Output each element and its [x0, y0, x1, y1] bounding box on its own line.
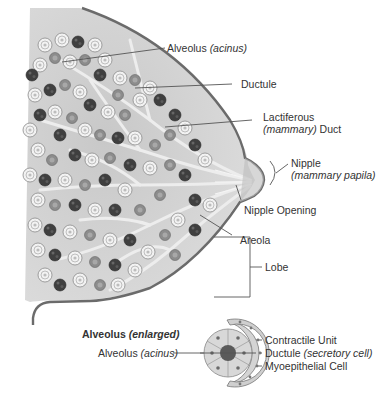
label-alveolus: Alveolus (acinus)	[167, 42, 247, 54]
label-lobe: Lobe	[265, 261, 288, 273]
label-nipple-opening: Nipple Opening	[244, 204, 316, 216]
inset-label-alveolus: Alveolus (acinus)	[98, 347, 178, 359]
alveolus-enlarged-illustration	[200, 319, 269, 387]
label-ductule: Ductule	[241, 78, 277, 90]
breast-tissue	[23, 8, 264, 325]
label-nipple: Nipple (mammary papila)	[291, 157, 376, 181]
inset-label-myoepithelial: Myoepithelial Cell	[265, 360, 347, 372]
label-lactiferous-duct: Lactiferous (mammary) Duct	[263, 111, 341, 135]
inset-label-ductule-secretory: Ductule (secretory cell)	[265, 347, 372, 359]
label-areola: Areola	[240, 234, 270, 246]
inset-label-contractile-unit: Contractile Unit	[265, 334, 337, 346]
inset-title: Alveolus (enlarged)	[82, 328, 179, 340]
